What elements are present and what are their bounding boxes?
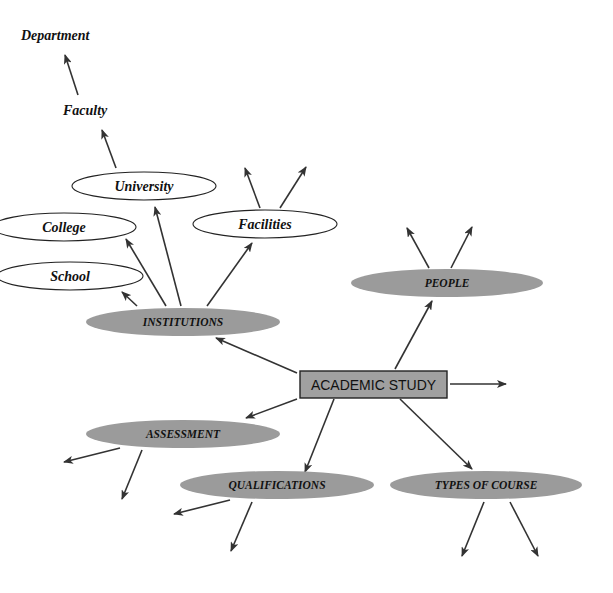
mind-map: Department Faculty University College Sc… [0, 0, 613, 593]
arrow-people-up-2 [451, 227, 472, 268]
node-university: University [72, 172, 216, 200]
arrow-assessment-left [64, 448, 120, 462]
node-school: School [0, 262, 143, 290]
arrow-central-people [395, 301, 432, 369]
arrow-people-up-1 [407, 228, 429, 268]
arrow-facilities-up-1 [245, 168, 260, 208]
node-types-of-course: TYPES OF COURSE [390, 471, 582, 499]
arrow-institutions-university [155, 207, 181, 306]
node-department: Department [20, 28, 91, 43]
arrow-qualifications-left [174, 500, 230, 514]
svg-text:INSTITUTIONS: INSTITUTIONS [142, 316, 224, 328]
arrow-central-assessment [246, 399, 297, 418]
node-people: PEOPLE [351, 269, 543, 297]
node-faculty: Faculty [62, 103, 108, 118]
arrow-assessment-down [122, 450, 142, 499]
node-assessment: ASSESSMENT [86, 420, 280, 448]
svg-text:Facilities: Facilities [237, 217, 292, 232]
node-college: College [0, 213, 136, 241]
node-qualifications: QUALIFICATIONS [180, 471, 374, 499]
node-institutions: INSTITUTIONS [86, 308, 280, 336]
svg-text:QUALIFICATIONS: QUALIFICATIONS [228, 479, 325, 491]
arrow-faculty-department [65, 55, 78, 95]
svg-text:University: University [114, 179, 174, 194]
arrow-facilities-up-2 [280, 167, 306, 208]
arrow-university-faculty [102, 130, 116, 168]
svg-text:School: School [50, 269, 90, 284]
arrow-types-down-right [510, 502, 538, 556]
arrow-central-qualifications [305, 399, 334, 472]
arrow-qualifications-down [231, 502, 252, 551]
node-academic-study: ACADEMIC STUDY [300, 371, 447, 398]
arrow-central-types-of-course [400, 399, 472, 469]
svg-text:ASSESSMENT: ASSESSMENT [145, 428, 221, 440]
arrow-central-institutions [216, 338, 297, 373]
arrow-types-down-left [462, 502, 484, 556]
svg-text:PEOPLE: PEOPLE [425, 277, 470, 289]
arrow-institutions-school [122, 292, 137, 306]
svg-text:College: College [42, 220, 86, 235]
svg-text:TYPES OF COURSE: TYPES OF COURSE [435, 479, 538, 491]
svg-text:ACADEMIC STUDY: ACADEMIC STUDY [311, 377, 437, 393]
arrow-institutions-facilities [207, 243, 252, 306]
node-facilities: Facilities [193, 210, 337, 238]
